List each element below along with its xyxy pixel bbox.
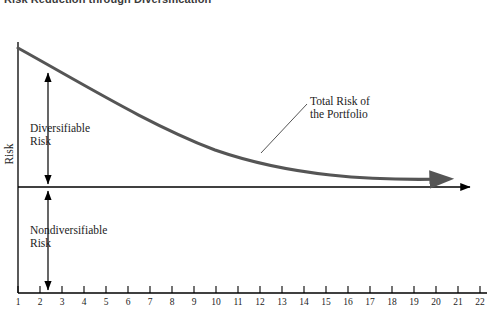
chart-canvas bbox=[0, 0, 497, 312]
total-risk-label-line1: Total Risk of bbox=[310, 95, 370, 108]
x-tick-label: 12 bbox=[253, 297, 267, 307]
x-tick-label: 21 bbox=[451, 297, 465, 307]
x-tick-label: 22 bbox=[473, 297, 487, 307]
x-tick-label: 4 bbox=[77, 297, 91, 307]
x-tick-label: 1 bbox=[11, 297, 25, 307]
x-tick-label: 11 bbox=[231, 297, 245, 307]
x-tick-label: 19 bbox=[407, 297, 421, 307]
nondiversifiable-risk-annotation: Nondiversifiable Risk bbox=[30, 224, 107, 250]
x-tick-label: 17 bbox=[363, 297, 377, 307]
total-risk-leader-line bbox=[261, 104, 307, 153]
x-tick-label: 18 bbox=[385, 297, 399, 307]
x-tick-label: 13 bbox=[275, 297, 289, 307]
diversifiable-risk-annotation: Diversifiable Risk bbox=[30, 122, 90, 148]
x-tick-label: 2 bbox=[33, 297, 47, 307]
nondiversifiable-risk-label-line1: Nondiversifiable bbox=[30, 224, 107, 237]
x-tick-label: 14 bbox=[297, 297, 311, 307]
x-tick-label: 7 bbox=[143, 297, 157, 307]
x-tick-label: 15 bbox=[319, 297, 333, 307]
x-tick-label: 8 bbox=[165, 297, 179, 307]
x-tick-label: 3 bbox=[55, 297, 69, 307]
diversifiable-risk-label-line2: Risk bbox=[30, 135, 90, 148]
x-tick-label: 10 bbox=[209, 297, 223, 307]
x-tick-label: 6 bbox=[121, 297, 135, 307]
x-tick-label: 20 bbox=[429, 297, 443, 307]
nondiversifiable-risk-label-line2: Risk bbox=[30, 237, 107, 250]
x-tick-label: 16 bbox=[341, 297, 355, 307]
y-axis-label: Risk bbox=[3, 134, 15, 174]
total-risk-annotation: Total Risk of the Portfolio bbox=[310, 95, 370, 121]
x-tick-label: 5 bbox=[99, 297, 113, 307]
x-tick-label: 9 bbox=[187, 297, 201, 307]
figure-container: Risk Reduction through Diversification bbox=[0, 0, 497, 312]
diversifiable-risk-label-line1: Diversifiable bbox=[30, 122, 90, 135]
x-axis-ticks bbox=[18, 286, 480, 293]
total-risk-label-line2: the Portfolio bbox=[310, 108, 370, 121]
total-risk-curve bbox=[18, 48, 448, 179]
